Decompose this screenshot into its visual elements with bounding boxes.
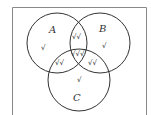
circle-b	[70, 13, 130, 73]
region-a-b-c: √√√	[71, 50, 85, 58]
region-a-and-b: √√	[72, 33, 81, 41]
set-label-b: B	[98, 23, 106, 34]
region-c-only: √	[77, 76, 82, 84]
venn-diagram: A B C √ √ √ √√ √√ √√ √√√	[0, 0, 151, 115]
region-b-and-c: √√	[88, 59, 97, 67]
set-label-c: C	[73, 92, 81, 103]
set-label-a: A	[48, 24, 56, 35]
region-a-and-c: √√	[55, 59, 64, 67]
region-b-only: √	[102, 42, 107, 50]
region-a-only: √	[41, 44, 46, 52]
